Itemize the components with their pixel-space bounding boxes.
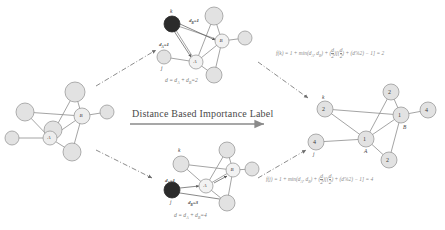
result-node-right-value: 4 [425, 107, 428, 113]
result-node-k-value: 2 [322, 106, 325, 112]
result-node-j-value: 4 [313, 139, 316, 145]
result-b-letter: B [403, 124, 406, 130]
result-k-letter: k [322, 94, 324, 100]
formula-f-of-k: f(k) = 1 + min(dA, dB) + (d2)[(d2) + (d%… [276, 48, 384, 60]
result-node-bottom-value: 2 [386, 157, 389, 163]
result-node-b-value: 1 [398, 112, 401, 118]
result-j-letter: j [313, 151, 315, 157]
result-node-top-value: 2 [388, 89, 391, 95]
figure-root: A B A B k j dA=1 dB=1 d = dA + dB=2 [0, 0, 445, 230]
result-node-a-value: 1 [363, 136, 366, 142]
transform-arrow-label: Distance Based Importance Label [132, 108, 273, 119]
result-a-letter: A [364, 148, 367, 154]
formula-f-of-j: f(j) = 1 + min(dA, dB) + (d2)[(d2) + (d%… [266, 174, 373, 186]
